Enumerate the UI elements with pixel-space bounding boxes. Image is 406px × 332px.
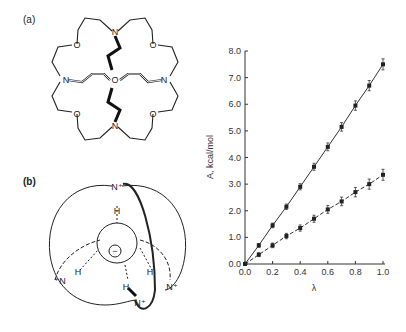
data-point <box>340 125 344 129</box>
data-point <box>298 226 302 230</box>
y-tick-label: 7.0 <box>228 73 241 83</box>
data-point <box>326 207 330 211</box>
chart-axes: 0.00.20.40.60.81.00.01.02.03.04.05.06.07… <box>228 46 389 277</box>
x-tick-label: 0.4 <box>294 267 307 277</box>
y-tick-label: 0.0 <box>228 259 241 269</box>
data-point <box>284 234 288 238</box>
data-point <box>271 223 275 227</box>
free-energy-chart: 0.00.20.40.60.81.00.01.02.03.04.05.06.07… <box>0 0 406 332</box>
y-tick-label: 6.0 <box>228 99 241 109</box>
data-point <box>312 165 316 169</box>
x-tick-label: 0.2 <box>266 267 279 277</box>
data-point <box>381 62 385 66</box>
data-point <box>353 104 357 108</box>
data-point <box>298 185 302 189</box>
data-point <box>243 262 247 266</box>
chart-series <box>243 59 385 266</box>
y-tick-label: 5.0 <box>228 126 241 136</box>
y-axis-label: A, kcal/mol <box>205 135 215 179</box>
data-point <box>284 205 288 209</box>
data-point <box>353 190 357 194</box>
y-tick-label: 8.0 <box>228 46 241 56</box>
x-tick-label: 0.8 <box>349 267 362 277</box>
data-point <box>271 243 275 247</box>
data-point <box>367 84 371 88</box>
y-tick-label: 4.0 <box>228 153 241 163</box>
data-point <box>340 199 344 203</box>
y-tick-label: 1.0 <box>228 232 241 242</box>
y-tick-label: 2.0 <box>228 206 241 216</box>
data-point <box>257 253 261 257</box>
data-point <box>257 243 261 247</box>
x-tick-label: 0.6 <box>322 267 335 277</box>
x-axis-label: λ <box>312 283 317 293</box>
data-point <box>381 173 385 177</box>
data-point <box>312 217 316 221</box>
data-point <box>326 145 330 149</box>
x-tick-label: 1.0 <box>377 267 390 277</box>
y-tick-label: 3.0 <box>228 179 241 189</box>
data-point <box>367 182 371 186</box>
